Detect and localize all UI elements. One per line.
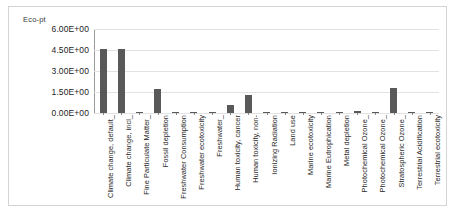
x-axis-category-label: Terrestrial Acidification bbox=[415, 115, 424, 190]
x-axis-category-label: Fine Particulate Matter_ bbox=[142, 115, 151, 195]
gridline bbox=[94, 50, 439, 51]
bar bbox=[390, 88, 397, 113]
y-axis-tick-label: 4.50E+00 bbox=[52, 45, 89, 55]
x-axis-category-label: Freshwater ecotoxicity bbox=[197, 115, 206, 190]
y-axis-tick-labels: 0.00E+001.50E+003.00E+004.50E+006.00E+00 bbox=[9, 29, 89, 113]
bar bbox=[227, 105, 234, 113]
gridline bbox=[94, 29, 439, 30]
chart-container: Eco-pt 0.00E+001.50E+003.00E+004.50E+006… bbox=[8, 6, 447, 206]
x-axis-category-label: Human toxicity, cancer bbox=[233, 115, 242, 190]
x-axis-category-label: Ionizing Radiation bbox=[270, 115, 279, 175]
x-axis-category-label: Photochemical Ozone_ bbox=[360, 115, 369, 192]
x-axis-category-label: Freshwater_ bbox=[215, 115, 224, 157]
bar bbox=[245, 95, 252, 113]
bar bbox=[100, 49, 107, 113]
x-axis-category-label: Climate change, default_ bbox=[106, 115, 115, 198]
y-axis-tick-label: 3.00E+00 bbox=[52, 66, 89, 76]
x-axis-category-label: Fossil depletion bbox=[161, 115, 170, 167]
x-axis-category-label: Stratospheric Ozone_ bbox=[397, 115, 406, 187]
plot-area bbox=[94, 29, 439, 113]
x-axis-category-labels: Climate change, default_Climate change, … bbox=[94, 115, 439, 212]
gridline bbox=[94, 92, 439, 93]
y-axis-tick-label: 0.00E+00 bbox=[52, 108, 89, 118]
bar bbox=[154, 89, 161, 113]
x-axis-category-label: Terrestrial ecotoxicity bbox=[433, 115, 442, 185]
x-axis-category-label: Land use bbox=[288, 115, 297, 146]
x-axis-category-label: Climate change, incl_ bbox=[124, 115, 133, 187]
y-axis-tick-label: 1.50E+00 bbox=[52, 87, 89, 97]
x-axis-category-label: Human toxicity, non- bbox=[251, 115, 260, 183]
gridline bbox=[94, 71, 439, 72]
y-axis-tick-label: 6.00E+00 bbox=[52, 24, 89, 34]
x-axis-category-label: Metal depletion bbox=[342, 115, 351, 166]
x-axis-category-label: Photochemical Ozone_ bbox=[378, 115, 387, 192]
bar bbox=[118, 49, 125, 113]
x-axis-category-label: Freshwater Consumption bbox=[179, 115, 188, 199]
y-axis-title: Eco-pt bbox=[23, 15, 46, 24]
x-axis-category-label: Marine ecotoxicity bbox=[306, 115, 315, 175]
x-axis-category-label: Marine Eutrophication bbox=[324, 115, 333, 188]
